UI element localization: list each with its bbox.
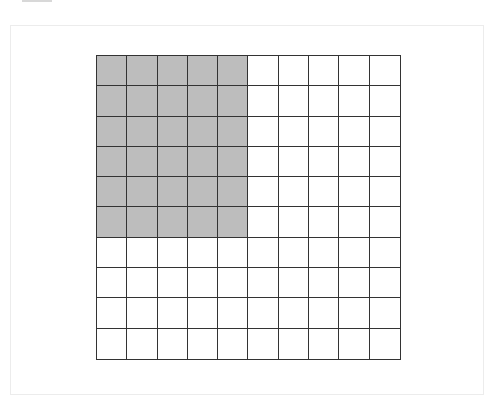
grid-cell: [370, 207, 400, 237]
grid-cell-shaded: [218, 147, 248, 177]
grid-cell: [248, 207, 278, 237]
grid-cell: [279, 238, 309, 268]
grid-cell-shaded: [97, 147, 127, 177]
grid-cell: [248, 177, 278, 207]
grid-cell: [248, 147, 278, 177]
grid-cell: [279, 268, 309, 298]
grid-cell: [97, 238, 127, 268]
grid-cell: [339, 268, 369, 298]
grid-cell: [309, 329, 339, 359]
grid-cell-shaded: [158, 86, 188, 116]
grid-cell: [127, 238, 157, 268]
grid-cell: [158, 238, 188, 268]
grid-cell-shaded: [188, 117, 218, 147]
grid-cell-shaded: [158, 147, 188, 177]
grid-cell: [309, 177, 339, 207]
grid-cell: [188, 298, 218, 328]
grid-cell-shaded: [218, 177, 248, 207]
grid-cell: [279, 207, 309, 237]
grid-cell-shaded: [218, 207, 248, 237]
grid-cell: [218, 238, 248, 268]
grid-cell: [370, 56, 400, 86]
grid-cell: [370, 298, 400, 328]
grid-cell: [279, 177, 309, 207]
grid-cell-shaded: [127, 117, 157, 147]
grid-cell: [248, 56, 278, 86]
grid-cell: [309, 56, 339, 86]
grid-cell-shaded: [158, 177, 188, 207]
grid-cell: [248, 238, 278, 268]
grid-cell: [339, 117, 369, 147]
grid-cell-shaded: [97, 86, 127, 116]
grid-cell: [248, 268, 278, 298]
grid-cell: [248, 329, 278, 359]
grid-cell-shaded: [97, 177, 127, 207]
grid-cell: [370, 238, 400, 268]
grid-cell: [309, 298, 339, 328]
grid-cell-shaded: [188, 56, 218, 86]
grid-cell-shaded: [158, 56, 188, 86]
grid-cell-shaded: [188, 86, 218, 116]
grid-cell: [370, 86, 400, 116]
grid-cell: [248, 298, 278, 328]
grid-cell-shaded: [97, 56, 127, 86]
grid-cell: [309, 117, 339, 147]
grid-cell: [339, 86, 369, 116]
grid-cell-shaded: [188, 147, 218, 177]
grid-cell: [370, 329, 400, 359]
grid-cell: [97, 329, 127, 359]
grid-cell-shaded: [127, 207, 157, 237]
grid-cell: [158, 268, 188, 298]
grid-cell-shaded: [127, 147, 157, 177]
grid-cell: [309, 86, 339, 116]
grid-cell-shaded: [218, 86, 248, 116]
grid-cell: [127, 298, 157, 328]
grid-cell: [279, 86, 309, 116]
grid-cell: [309, 207, 339, 237]
grid-cell-shaded: [158, 207, 188, 237]
grid-cell-shaded: [158, 117, 188, 147]
grid-cell: [339, 207, 369, 237]
grid-cell-shaded: [188, 177, 218, 207]
grid-cell: [188, 268, 218, 298]
grid-cell: [370, 268, 400, 298]
grid-cell: [339, 56, 369, 86]
grid-cell-shaded: [188, 207, 218, 237]
grid-cell: [339, 177, 369, 207]
grid-cell: [218, 268, 248, 298]
top-bar: [22, 0, 52, 2]
grid-cell-shaded: [97, 207, 127, 237]
grid-cell: [339, 329, 369, 359]
hundred-grid: [96, 55, 401, 360]
grid-cell-shaded: [218, 117, 248, 147]
grid-cell: [309, 238, 339, 268]
grid-cell: [339, 147, 369, 177]
grid-cell: [339, 238, 369, 268]
grid-cell: [248, 117, 278, 147]
grid-cell: [279, 56, 309, 86]
grid-cell: [339, 298, 369, 328]
grid-cell: [127, 268, 157, 298]
grid-cell: [218, 298, 248, 328]
grid-cell: [309, 147, 339, 177]
grid-cell: [370, 147, 400, 177]
grid-cell: [127, 329, 157, 359]
grid-cell-shaded: [127, 86, 157, 116]
grid-cell-shaded: [127, 56, 157, 86]
grid-cell: [279, 298, 309, 328]
grid-cell-shaded: [218, 56, 248, 86]
grid-cell: [279, 329, 309, 359]
grid-cell: [370, 177, 400, 207]
grid-cell: [370, 117, 400, 147]
grid-cell: [158, 329, 188, 359]
grid-cell: [97, 268, 127, 298]
grid-cell: [279, 147, 309, 177]
grid-cell: [97, 298, 127, 328]
grid-cell: [188, 329, 218, 359]
grid-cell-shaded: [127, 177, 157, 207]
grid-cell: [218, 329, 248, 359]
grid-cell: [158, 298, 188, 328]
grid-cell: [248, 86, 278, 116]
grid-cell: [279, 117, 309, 147]
grid-cell: [188, 238, 218, 268]
